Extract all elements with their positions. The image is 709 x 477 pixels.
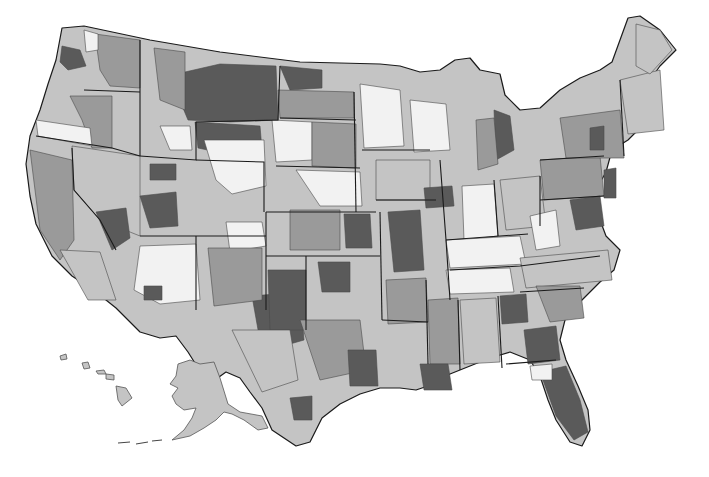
region-wi [410, 100, 450, 152]
region-pa [540, 156, 604, 200]
region-az-south [144, 286, 162, 300]
region-fl-north [530, 364, 552, 380]
region-mo-central [388, 210, 424, 272]
region-mi-west [476, 118, 498, 170]
region-il-north [424, 186, 454, 208]
region-ut-north [150, 164, 176, 180]
region-ca-coast [30, 150, 74, 260]
region-in [462, 184, 498, 240]
region-ga-south [524, 326, 560, 364]
region-md [570, 196, 604, 230]
alaska-aleutians [118, 440, 162, 444]
region-mt-central [178, 64, 278, 122]
region-ks-west [290, 210, 340, 250]
region-nd-south [278, 90, 354, 118]
region-ok-central [318, 262, 350, 292]
region-al [460, 298, 500, 364]
us-choropleth-map [0, 0, 709, 477]
region-ks-east [344, 214, 372, 248]
region-ar [386, 278, 428, 324]
region-me [636, 24, 672, 74]
region-ia-central [376, 160, 430, 200]
region-sd-east [312, 122, 356, 168]
region-ms [428, 298, 460, 364]
region-tx-east [348, 350, 378, 386]
region-sd-west [272, 120, 312, 162]
hawaii-inset [60, 354, 132, 406]
region-ky [446, 236, 526, 268]
region-nj [604, 168, 616, 198]
region-wa-central [84, 30, 98, 52]
region-la [420, 364, 452, 390]
region-tx-south [290, 396, 312, 420]
region-ny-central [590, 126, 604, 150]
region-new-england [620, 70, 664, 134]
region-mn [360, 84, 404, 148]
region-ga-north [500, 294, 528, 324]
region-nm-central [208, 248, 262, 306]
region-tn [446, 268, 514, 294]
